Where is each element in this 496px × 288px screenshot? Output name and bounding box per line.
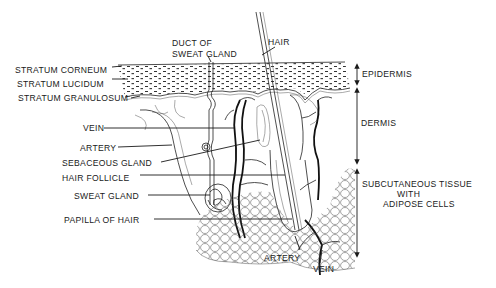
label-bottom-artery: ARTERY — [264, 253, 300, 263]
label-subcutaneous-line2: WITH — [397, 189, 420, 199]
label-papilla-of-hair: PAPILLA OF HAIR — [64, 215, 140, 225]
epidermis-layer — [118, 62, 350, 103]
label-bottom-vein: VEIN — [313, 264, 334, 274]
label-sweat-gland: SWEAT GLAND — [74, 191, 139, 201]
skin-cross-section-diagram: STRATUM CORNEUM STRATUM LUCIDUM STRATUM … — [0, 0, 496, 288]
label-duct-of-sweat-gland-line2: SWEAT GLAND — [172, 49, 237, 59]
label-subcutaneous-line1: SUBCUTANEOUS TISSUE — [362, 179, 472, 189]
label-subcutaneous-line3: ADIPOSE CELLS — [383, 199, 455, 209]
label-vein: VEIN — [83, 123, 104, 133]
label-artery: ARTERY — [80, 143, 116, 153]
label-stratum-corneum: STRATUM CORNEUM — [15, 65, 107, 75]
label-hair-follicle: HAIR FOLLICLE — [62, 173, 129, 183]
label-duct-of-sweat-gland-line1: DUCT OF — [172, 38, 212, 48]
label-sebaceous-gland: SEBACEOUS GLAND — [62, 158, 152, 168]
label-hair: HAIR — [268, 37, 290, 47]
label-stratum-granulosum: STRATUM GRANULOSUM — [18, 93, 128, 103]
label-stratum-lucidum: STRATUM LUCIDUM — [17, 79, 104, 89]
label-epidermis: EPIDERMIS — [362, 69, 412, 79]
label-dermis: DERMIS — [361, 118, 396, 128]
